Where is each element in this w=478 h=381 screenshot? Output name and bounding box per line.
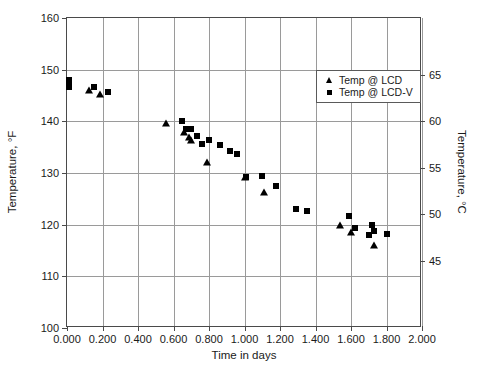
data-point: [371, 228, 377, 234]
y-axis-tick: [62, 121, 67, 122]
legend-item-temp-lcd: Temp @ LCD: [323, 74, 413, 86]
legend-label: Temp @ LCD-V: [339, 87, 413, 98]
data-point: [199, 141, 205, 147]
data-point: [194, 133, 200, 139]
y2-axis-tick-label: 65: [429, 69, 441, 80]
x-axis-tick-label: 1.200: [266, 334, 294, 345]
y-axis-tick-label: 100: [41, 323, 59, 334]
x-axis-tick-label: 1.800: [373, 334, 401, 345]
y2-axis-tick: [420, 75, 425, 76]
y-axis-title-left: Temperature, °F: [6, 131, 18, 214]
data-point: [293, 206, 299, 212]
x-axis-title: Time in days: [212, 349, 277, 361]
square-marker-icon: [323, 90, 335, 95]
y-axis-tick-label: 150: [41, 64, 59, 75]
data-point: [96, 90, 104, 97]
data-point: [203, 158, 211, 165]
y-axis-title-right: Temperature, °C: [456, 130, 468, 214]
y-axis-tick: [62, 70, 67, 71]
data-point: [179, 118, 185, 124]
x-axis-tick-label: 2.000: [408, 334, 436, 345]
x-axis-tick: [103, 326, 104, 331]
data-point: [304, 208, 310, 214]
data-point: [105, 89, 111, 95]
data-point: [162, 120, 170, 127]
x-gridline: [103, 18, 104, 326]
data-point: [227, 148, 233, 154]
x-gridline: [316, 18, 317, 326]
x-axis-tick: [138, 326, 139, 331]
data-point: [259, 173, 265, 179]
x-axis-tick: [422, 326, 423, 331]
x-gridline: [387, 18, 388, 326]
y-axis-tick-label: 130: [41, 168, 59, 179]
data-point: [352, 225, 358, 231]
y2-axis-tick: [420, 168, 425, 169]
x-axis-tick-label: 1.000: [231, 334, 259, 345]
plot-area: 0.0000.2000.4000.6000.8001.0001.2001.400…: [66, 17, 421, 327]
data-point: [384, 231, 390, 237]
x-gridline: [351, 18, 352, 326]
y-axis-tick: [62, 328, 67, 329]
y2-axis-tick-label: 60: [429, 116, 441, 127]
legend-item-temp-lcd-v: Temp @ LCD-V: [323, 86, 413, 98]
x-axis-tick-label: 0.000: [53, 334, 81, 345]
x-axis-tick: [351, 326, 352, 331]
data-point: [217, 142, 223, 148]
y2-axis-tick-label: 55: [429, 162, 441, 173]
x-axis-tick-label: 1.600: [337, 334, 365, 345]
x-axis-tick: [209, 326, 210, 331]
data-point: [370, 241, 378, 248]
x-gridline: [174, 18, 175, 326]
data-point: [243, 174, 249, 180]
y-gridline: [67, 225, 420, 226]
data-point: [234, 151, 240, 157]
y2-axis-tick: [420, 121, 425, 122]
data-point: [346, 213, 352, 219]
x-axis-tick: [387, 326, 388, 331]
y2-axis-tick-label: 45: [429, 255, 441, 266]
x-gridline: [138, 18, 139, 326]
y-axis-tick-label: 140: [41, 116, 59, 127]
x-axis-tick-label: 0.600: [160, 334, 188, 345]
x-gridline: [209, 18, 210, 326]
data-point: [188, 126, 194, 132]
data-point: [273, 183, 279, 189]
y-gridline: [67, 276, 420, 277]
x-axis-tick: [67, 326, 68, 331]
y-axis-tick: [62, 225, 67, 226]
y-axis-tick: [62, 173, 67, 174]
y2-axis-tick: [420, 214, 425, 215]
data-point: [206, 137, 212, 143]
y-gridline: [67, 121, 420, 122]
triangle-marker-icon: [323, 77, 335, 83]
scatter-chart: Temperature, °F Temperature, °C Time in …: [0, 0, 478, 381]
data-point: [66, 84, 72, 90]
y-axis-tick-label: 120: [41, 219, 59, 230]
y-axis-tick-label: 110: [41, 271, 59, 282]
x-axis-tick: [174, 326, 175, 331]
x-axis-tick-label: 1.400: [302, 334, 330, 345]
y-axis-tick: [62, 276, 67, 277]
x-gridline: [280, 18, 281, 326]
x-axis-tick: [316, 326, 317, 331]
x-gridline: [422, 18, 423, 326]
x-axis-tick-label: 0.200: [89, 334, 117, 345]
y2-axis-tick-label: 50: [429, 209, 441, 220]
x-axis-tick: [280, 326, 281, 331]
legend-label: Temp @ LCD: [339, 75, 402, 86]
y-axis-tick-label: 160: [41, 13, 59, 24]
x-gridline: [245, 18, 246, 326]
x-axis-tick-label: 0.400: [124, 334, 152, 345]
y-axis-tick: [62, 18, 67, 19]
data-point: [336, 222, 344, 229]
data-point: [260, 188, 268, 195]
y2-axis-tick: [420, 261, 425, 262]
x-axis-tick-label: 0.800: [195, 334, 223, 345]
chart-legend: Temp @ LCD Temp @ LCD-V: [316, 70, 421, 103]
data-point: [91, 84, 97, 90]
data-point: [369, 222, 375, 228]
x-axis-tick: [245, 326, 246, 331]
